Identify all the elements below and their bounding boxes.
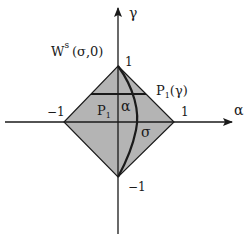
alpha-region-label: α <box>121 99 130 113</box>
p1-region-main: P <box>97 103 106 118</box>
stable-manifold-sup: s <box>64 40 69 50</box>
sigma-region-label: σ <box>141 125 151 139</box>
p1-region-sub: 1 <box>106 111 111 120</box>
p1-region-label: P1 <box>97 104 111 120</box>
p1-gamma-main: P <box>156 83 165 98</box>
p1-gamma-arg: (γ) <box>170 83 188 98</box>
tick-gamma-neg: −1 <box>128 181 146 193</box>
tick-gamma-pos: 1 <box>125 56 133 68</box>
gamma-axis-label: γ <box>129 6 137 20</box>
tick-alpha-pos: 1 <box>181 106 189 118</box>
diagram-canvas <box>0 0 247 237</box>
stable-manifold-args: (σ,0) <box>72 44 103 59</box>
tick-alpha-neg: −1 <box>47 106 65 118</box>
p1-gamma-label: P1(γ) <box>156 84 188 100</box>
stable-manifold-main: W <box>51 44 64 59</box>
stable-manifold-label: Ws(σ,0) <box>51 41 103 58</box>
alpha-axis-label: α <box>234 103 243 117</box>
